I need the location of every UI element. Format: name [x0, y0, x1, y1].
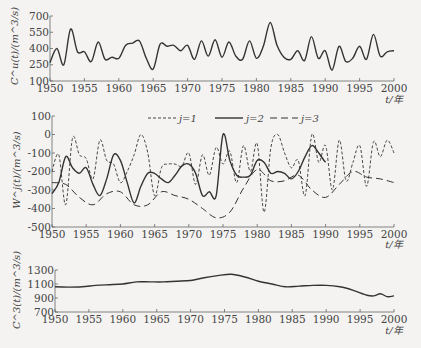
x-tick-label: 1985	[279, 313, 306, 325]
x-tick-label: 1980	[243, 82, 270, 94]
y-tick-label: 100	[31, 110, 51, 122]
x-tick-label: 1955	[73, 228, 100, 240]
y-tick-label: -300	[27, 184, 51, 196]
x-tick-label: 1995	[346, 228, 373, 240]
x-tick-label: 1995	[347, 313, 374, 325]
y-tick-label: 700	[29, 10, 49, 22]
y-axis-title: C^u(t)/(m^3/s)	[9, 7, 20, 85]
series-line-c-u-t-	[50, 22, 394, 70]
y-tick-label: 1300	[27, 264, 54, 276]
x-tick-label: 1975	[209, 82, 236, 94]
x-axis-title: t/年	[385, 94, 403, 105]
chart-top-cu: 1002504005507001950195519601965197019751…	[9, 7, 407, 105]
x-tick-label: 1970	[175, 228, 202, 240]
chart-middle-wj: -500-400-300-200-10001001950195519601965…	[11, 110, 407, 251]
x-tick-label: 1965	[140, 82, 167, 94]
x-tick-label: 1985	[278, 228, 305, 240]
x-tick-label: 1960	[105, 82, 132, 94]
y-axis-title: W^j(t)/(m^3/s)	[11, 131, 22, 209]
x-tick-label: 1950	[39, 228, 66, 240]
series-line-c-3-t-	[55, 274, 394, 297]
x-tick-label: 1965	[143, 313, 170, 325]
y-axis-title: C^3(t)/(m^3/s)	[11, 251, 22, 329]
y-tick-label: -400	[27, 202, 51, 214]
legend-label: j=1	[177, 113, 197, 124]
chart-bottom-c3: 7009001100130019501955196019651970197519…	[11, 251, 407, 336]
x-tick-label: 1990	[312, 82, 339, 94]
series-line-j-1	[52, 134, 394, 212]
x-tick-label: 1950	[37, 82, 64, 94]
x-tick-label: 1975	[210, 228, 237, 240]
x-tick-label: 1960	[107, 228, 134, 240]
x-tick-label: 1960	[109, 313, 136, 325]
legend-label: j=3	[299, 113, 319, 124]
y-tick-label: 0	[44, 128, 51, 140]
x-tick-label: 1995	[346, 82, 373, 94]
x-tick-label: 1955	[71, 82, 98, 94]
x-tick-label: 1970	[177, 313, 204, 325]
x-tick-label: 2000	[381, 313, 408, 325]
x-tick-label: 1990	[313, 313, 340, 325]
y-tick-label: 900	[34, 292, 54, 304]
series-line-j-2	[52, 134, 326, 203]
y-tick-label: 400	[29, 42, 49, 54]
y-tick-label: -100	[27, 147, 51, 159]
x-tick-label: 1975	[211, 313, 238, 325]
y-tick-label: -200	[27, 165, 51, 177]
x-tick-label: 1980	[244, 228, 271, 240]
x-tick-label: 1985	[277, 82, 304, 94]
figure-canvas: 1002504005507001950195519601965197019751…	[0, 0, 421, 348]
legend: j=1j=2j=3	[148, 113, 319, 124]
x-tick-label: 1970	[174, 82, 201, 94]
legend-label: j=2	[244, 113, 264, 124]
series-line-j-3	[52, 170, 394, 218]
x-tick-label: 1965	[141, 228, 168, 240]
y-tick-label: 250	[29, 58, 49, 70]
x-axis-title: t/年	[385, 239, 403, 250]
x-tick-label: 1950	[42, 313, 69, 325]
x-axis-title: t/年	[385, 325, 403, 336]
y-tick-label: 550	[29, 26, 49, 38]
x-tick-label: 1980	[245, 313, 272, 325]
y-tick-label: 1100	[27, 278, 54, 290]
x-tick-label: 1955	[76, 313, 103, 325]
x-tick-label: 1990	[312, 228, 339, 240]
x-tick-label: 2000	[381, 82, 408, 94]
